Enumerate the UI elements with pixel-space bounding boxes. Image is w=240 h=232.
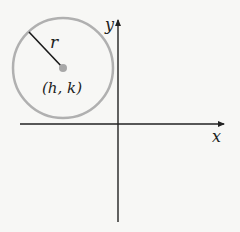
circle-diagram: r (h, k) y x [0,0,240,232]
radius-label: r [50,32,59,52]
x-axis-label: x [212,127,221,146]
center-point [59,64,67,72]
center-label: (h, k) [42,79,82,97]
y-axis-label: y [104,15,115,34]
